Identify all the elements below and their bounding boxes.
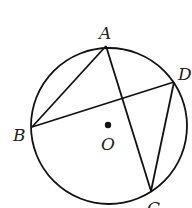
segment-ac <box>106 46 151 191</box>
label-a: A <box>97 23 111 43</box>
label-b: B <box>12 125 26 145</box>
center-point <box>105 122 111 128</box>
label-c: C <box>147 198 160 208</box>
label-d: D <box>177 64 192 84</box>
label-o: O <box>101 134 115 154</box>
geometry-diagram: A B C D O <box>0 0 192 208</box>
